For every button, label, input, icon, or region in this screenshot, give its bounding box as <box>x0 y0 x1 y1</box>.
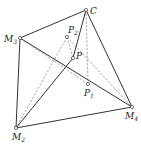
label-m4: M4 <box>124 111 138 122</box>
label-c: C <box>90 6 97 16</box>
label-p: P <box>75 51 83 61</box>
label-p2: P2 <box>67 25 78 36</box>
edge-c-p1 <box>86 10 88 84</box>
point-p2 <box>65 35 68 38</box>
label-m3: M3 <box>3 34 17 45</box>
edge-m2-p <box>16 58 73 128</box>
labels: C M3 P2 P P1 M2 M4 <box>3 6 138 143</box>
point-m2 <box>14 126 17 129</box>
edge-p2-m2 <box>16 37 67 128</box>
pyramid-diagram: C M3 P2 P P1 M2 M4 <box>0 0 141 146</box>
edge-m2-m4 <box>16 107 132 128</box>
point-c <box>84 8 87 11</box>
edge-m3-m2 <box>16 38 20 128</box>
point-p1 <box>86 82 89 85</box>
edge-p2-m4 <box>67 37 132 107</box>
edge-m3-p1 <box>20 38 88 84</box>
point-m3 <box>18 36 21 39</box>
point-m4 <box>130 105 133 108</box>
label-m2: M2 <box>11 132 25 143</box>
label-p1: P1 <box>83 88 94 99</box>
point-p <box>71 56 74 59</box>
